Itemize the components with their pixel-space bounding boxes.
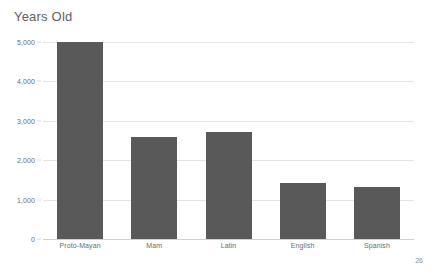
bar-mam[interactable] — [131, 137, 177, 239]
y-tick-label: 4,000 — [17, 78, 35, 85]
y-tick-mark — [37, 120, 41, 121]
x-tick-label: Proto-Mayan — [60, 242, 101, 249]
x-axis: Proto-MayanMamLatinEnglishSpanish — [43, 241, 414, 257]
bar-proto-mayan[interactable] — [57, 42, 103, 239]
x-tick-label: Spanish — [364, 242, 390, 249]
chart-title: Years Old — [14, 9, 72, 24]
y-tick-mark — [37, 81, 41, 82]
y-axis: 01,0002,0003,0004,0005,000 — [0, 42, 41, 239]
y-tick-label: 2,000 — [17, 157, 35, 164]
gridline — [43, 239, 414, 240]
slide-canvas: Years Old 01,0002,0003,0004,0005,000 Pro… — [0, 0, 432, 270]
y-tick-label: 5,000 — [17, 39, 35, 46]
x-tick-label: Latin — [221, 242, 237, 249]
y-tick-label: 3,000 — [17, 117, 35, 124]
bar-spanish[interactable] — [354, 187, 400, 239]
page-number: 26 — [415, 257, 423, 264]
plot-area — [43, 42, 414, 239]
bar-latin[interactable] — [206, 132, 252, 239]
x-tick-label: English — [291, 242, 315, 249]
bar-english[interactable] — [280, 183, 326, 239]
y-tick-mark — [37, 199, 41, 200]
y-tick-mark — [37, 160, 41, 161]
y-tick-label: 1,000 — [17, 196, 35, 203]
y-tick-mark — [37, 239, 41, 240]
y-tick-mark — [37, 42, 41, 43]
x-tick-label: Mam — [146, 242, 162, 249]
y-tick-label: 0 — [31, 236, 35, 243]
